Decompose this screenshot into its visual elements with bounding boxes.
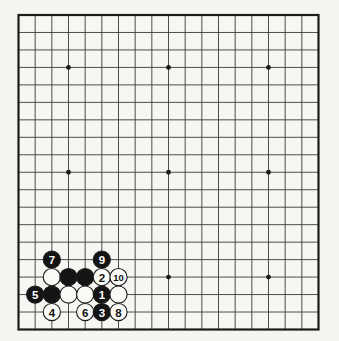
- stone-white-move-10-7-16: 10: [110, 268, 127, 285]
- star-point-10-4: [166, 65, 171, 70]
- go-diagram-page: 79210514638: [0, 0, 339, 341]
- move-number-label: 10: [113, 272, 124, 283]
- black-stone-circle: [43, 286, 60, 303]
- move-number-label: 5: [32, 289, 39, 301]
- star-point-16-16: [266, 275, 271, 280]
- stone-white-plain-3-16: [43, 268, 60, 285]
- move-number-label: 4: [49, 307, 56, 319]
- stone-white-move-8-7-18: 8: [110, 303, 127, 320]
- black-stone-circle: [60, 268, 77, 285]
- stone-black-move-9-6-15: 9: [93, 251, 110, 268]
- move-number-label: 7: [49, 254, 55, 266]
- stone-black-move-1-6-17: 1: [93, 286, 110, 303]
- white-stone-circle: [60, 286, 77, 303]
- white-stone-circle: [77, 286, 94, 303]
- stone-white-move-2-6-16: 2: [93, 268, 110, 285]
- star-point-16-10: [266, 170, 271, 175]
- stone-black-plain-3-17: [43, 286, 60, 303]
- move-number-label: 8: [115, 307, 122, 319]
- star-point-16-4: [266, 65, 271, 70]
- white-stone-circle: [43, 268, 60, 285]
- stone-black-plain-4-16: [60, 268, 77, 285]
- star-point-4-10: [66, 170, 71, 175]
- stone-white-move-6-5-18: 6: [77, 303, 94, 320]
- star-point-4-4: [66, 65, 71, 70]
- stone-white-plain-7-17: [110, 286, 127, 303]
- move-number-label: 3: [99, 307, 105, 319]
- stone-black-move-3-6-18: 3: [93, 303, 110, 320]
- star-point-10-16: [166, 275, 171, 280]
- move-number-label: 9: [99, 254, 105, 266]
- go-board: 79210514638: [0, 0, 339, 341]
- move-number-label: 2: [99, 272, 105, 284]
- star-point-10-10: [166, 170, 171, 175]
- black-stone-circle: [77, 268, 94, 285]
- stone-black-plain-5-16: [77, 268, 94, 285]
- stone-black-move-5-2-17: 5: [27, 286, 44, 303]
- white-stone-circle: [110, 286, 127, 303]
- stone-white-move-4-3-18: 4: [43, 303, 60, 320]
- stone-black-move-7-3-15: 7: [43, 251, 60, 268]
- move-number-label: 6: [82, 307, 88, 319]
- stone-white-plain-4-17: [60, 286, 77, 303]
- stone-white-plain-5-17: [77, 286, 94, 303]
- move-number-label: 1: [99, 289, 106, 301]
